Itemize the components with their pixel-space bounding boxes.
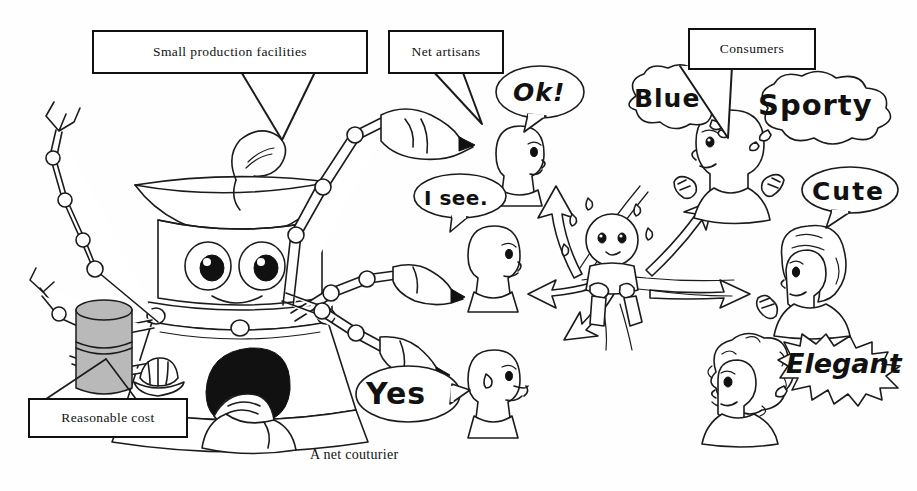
callout-consumers[interactable]: Consumers xyxy=(688,28,816,70)
bubble-yes-text: Yes xyxy=(366,376,426,411)
figure-canvas: Small production facilities Net artisans… xyxy=(0,0,917,491)
seated-worker xyxy=(168,336,328,456)
figure-caption: A net couturier xyxy=(310,447,398,463)
bubble-sporty-text: Sporty xyxy=(758,88,873,122)
bubble-elegant-text: Elegant xyxy=(786,348,902,379)
bubble-ok-text: Ok! xyxy=(513,78,565,107)
callout-tail-small-production-facilities xyxy=(220,68,340,146)
callout-label: Net artisans xyxy=(412,44,481,60)
callout-small-production-facilities[interactable]: Small production facilities xyxy=(92,30,368,74)
callout-tail-net-artisans xyxy=(428,68,498,130)
callout-label: Reasonable cost xyxy=(61,410,154,426)
consumer-middle xyxy=(752,218,872,338)
callout-tail-consumers xyxy=(676,64,756,144)
bubble-cute-text: Cute xyxy=(812,177,885,206)
callout-reasonable-cost[interactable]: Reasonable cost xyxy=(28,398,188,438)
callout-label: Consumers xyxy=(720,41,784,57)
callout-label: Small production facilities xyxy=(153,44,307,60)
callout-net-artisans[interactable]: Net artisans xyxy=(388,30,504,74)
hat-object xyxy=(128,352,188,402)
bubble-i-see-text: I see. xyxy=(424,186,488,210)
robot-arm-upper-left xyxy=(46,102,158,322)
